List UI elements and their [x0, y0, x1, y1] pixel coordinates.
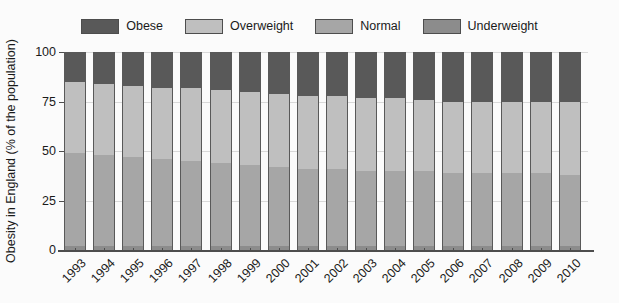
bar-segment-overweight [123, 86, 143, 157]
x-tick-mark [424, 248, 425, 252]
bar-segment-obese [269, 52, 289, 94]
chart-legend: ObeseOverweightNormalUnderweight [0, 14, 619, 38]
bar-segment-overweight [472, 102, 492, 173]
y-tick-label: 25 [16, 194, 56, 208]
bar-segment-normal [211, 163, 231, 246]
bar-segment-obese [298, 52, 318, 96]
bar-2009[interactable] [530, 52, 552, 250]
bar-segment-overweight [152, 88, 172, 159]
bar-segment-obese [356, 52, 376, 98]
x-tick-mark [191, 248, 192, 252]
x-tick-mark [395, 248, 396, 252]
bar-2003[interactable] [355, 52, 377, 250]
x-axis-ticks: 1993199419951996199719981999200020012002… [64, 252, 588, 302]
bar-segment-obese [327, 52, 347, 96]
bar-segment-obese [152, 52, 172, 88]
bar-segment-overweight [414, 100, 434, 171]
x-tick-mark [482, 248, 483, 252]
chart-figure: ObeseOverweightNormalUnderweight Obesity… [0, 0, 619, 303]
bar-segment-obese [472, 52, 492, 102]
legend-item-overweight[interactable]: Overweight [185, 19, 293, 34]
bar-segment-normal [531, 173, 551, 246]
bar-2006[interactable] [442, 52, 464, 250]
bar-2002[interactable] [326, 52, 348, 250]
bar-1993[interactable] [64, 52, 86, 250]
plot-area [64, 52, 588, 250]
x-tick-mark [337, 248, 338, 252]
x-tick-mark [453, 248, 454, 252]
bar-segment-normal [356, 171, 376, 246]
bar-segment-obese [181, 52, 201, 88]
bar-segment-overweight [531, 102, 551, 173]
bar-segment-normal [443, 173, 463, 246]
legend-label-obese: Obese [126, 20, 163, 33]
bar-segment-overweight [356, 98, 376, 171]
bar-2005[interactable] [413, 52, 435, 250]
x-tick-mark [221, 248, 222, 252]
bar-1997[interactable] [180, 52, 202, 250]
bar-segment-overweight [502, 102, 522, 173]
bar-segment-obese [414, 52, 434, 100]
bar-segment-normal [152, 159, 172, 246]
bar-1996[interactable] [151, 52, 173, 250]
legend-item-obese[interactable]: Obese [81, 19, 163, 34]
bar-segment-obese [65, 52, 85, 82]
bar-segment-obese [385, 52, 405, 98]
x-tick-mark [250, 248, 251, 252]
bar-segment-normal [298, 169, 318, 246]
legend-label-overweight: Overweight [230, 20, 293, 33]
legend-swatch-underweight [423, 19, 461, 34]
bar-1999[interactable] [239, 52, 261, 250]
bar-segment-normal [240, 165, 260, 246]
bar-1995[interactable] [122, 52, 144, 250]
bar-2007[interactable] [471, 52, 493, 250]
bar-segment-normal [385, 171, 405, 246]
y-tick-label: 100 [16, 45, 56, 59]
bar-2010[interactable] [559, 52, 581, 250]
bar-segment-normal [472, 173, 492, 246]
bar-segment-normal [269, 167, 289, 246]
x-tick-mark [366, 248, 367, 252]
bar-segment-normal [123, 157, 143, 246]
x-tick-mark [570, 248, 571, 252]
bar-2000[interactable] [268, 52, 290, 250]
legend-label-underweight: Underweight [468, 20, 538, 33]
y-tick-label: 50 [16, 144, 56, 158]
bar-2004[interactable] [384, 52, 406, 250]
bar-segment-normal [94, 155, 114, 246]
bar-segment-overweight [240, 92, 260, 165]
legend-swatch-normal [315, 19, 353, 34]
bar-segment-obese [443, 52, 463, 102]
x-tick-mark [162, 248, 163, 252]
bar-segment-obese [502, 52, 522, 102]
bar-segment-normal [327, 169, 347, 246]
bar-segment-normal [502, 173, 522, 246]
bar-segment-obese [240, 52, 260, 92]
bar-segment-overweight [560, 102, 580, 175]
bar-1994[interactable] [93, 52, 115, 250]
bar-segment-overweight [298, 96, 318, 169]
bar-segment-obese [531, 52, 551, 102]
bar-segment-normal [181, 161, 201, 246]
bar-segment-overweight [327, 96, 347, 169]
x-tick-mark [541, 248, 542, 252]
bar-segment-overweight [94, 84, 114, 155]
legend-swatch-overweight [185, 19, 223, 34]
bar-2001[interactable] [297, 52, 319, 250]
bar-1998[interactable] [210, 52, 232, 250]
bar-segment-overweight [385, 98, 405, 171]
x-tick-mark [308, 248, 309, 252]
bar-segment-normal [65, 153, 85, 246]
bar-segment-overweight [181, 88, 201, 161]
legend-item-normal[interactable]: Normal [315, 19, 400, 34]
bar-segment-obese [560, 52, 580, 102]
y-tick-label: 0 [16, 243, 56, 257]
y-tick-label: 75 [16, 95, 56, 109]
bar-2008[interactable] [501, 52, 523, 250]
x-tick-mark [133, 248, 134, 252]
bar-segment-overweight [65, 82, 85, 153]
legend-item-underweight[interactable]: Underweight [423, 19, 538, 34]
bar-segment-obese [211, 52, 231, 90]
bar-segment-overweight [211, 90, 231, 163]
x-tick-mark [75, 248, 76, 252]
